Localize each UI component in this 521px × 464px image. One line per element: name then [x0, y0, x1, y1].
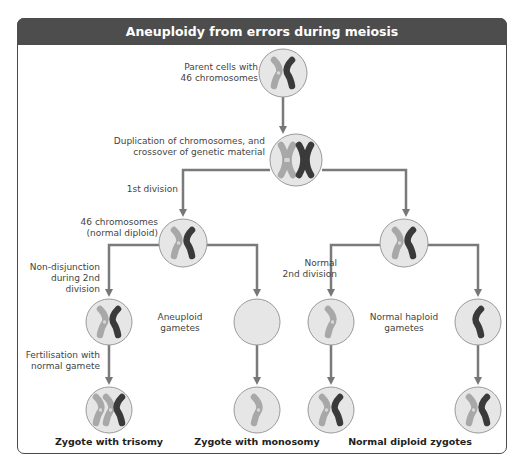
- haploid-label-line2: gametes: [364, 323, 444, 334]
- fertilisation-label-line2: normal gamete: [14, 361, 100, 372]
- cell-gamete-haploid-light: [308, 299, 354, 345]
- duplication-label: Duplication of chromosomes, and crossove…: [100, 136, 265, 158]
- haploid-label-line1: Normal haploid: [364, 312, 444, 323]
- arrow-first-division-right: [322, 170, 406, 213]
- centromere: [98, 408, 102, 412]
- centromere: [330, 320, 334, 324]
- first-division-label: 1st division: [100, 184, 178, 195]
- diploid-label: 46 chromosomes (normal diploid): [60, 217, 158, 239]
- cell-membrane: [455, 387, 501, 433]
- normal2nd-label-line2: 2nd division: [280, 269, 337, 280]
- centromere: [324, 408, 328, 412]
- cell-gamete-disomic: [86, 299, 132, 345]
- arrow-nondisjunction-left: [109, 245, 159, 293]
- nondisjunction-label: Non-disjunction during 2nd division: [14, 262, 100, 295]
- centromere: [108, 408, 112, 412]
- cell-membrane: [234, 299, 280, 345]
- nondisjunction-label-line2: during 2nd division: [14, 273, 100, 295]
- cell-gamete-haploid-dark: [455, 299, 501, 345]
- diploid-label-line2: (normal diploid): [60, 228, 158, 239]
- parent-label-line2: 46 chromosomes: [150, 73, 258, 84]
- cell-diploid-right: [380, 219, 428, 267]
- arrow-first-division-left: [183, 170, 270, 213]
- cell-parent: [259, 49, 307, 97]
- duplication-label-line1: Duplication of chromosomes, and: [100, 136, 265, 147]
- parent-cells-label: Parent cells with 46 chromosomes: [150, 62, 258, 84]
- cell-zygote-trisomy: [86, 387, 132, 433]
- centromere: [176, 241, 180, 245]
- nondisjunction-label-line1: Non-disjunction: [14, 262, 100, 273]
- crossover-point: [284, 158, 290, 163]
- parent-label-line1: Parent cells with: [150, 62, 258, 73]
- cell-duplicated: [270, 134, 322, 186]
- arrow-normal-division-right: [428, 245, 478, 293]
- monosomy-outcome-label: Zygote with monosomy: [187, 436, 327, 447]
- cell-diploid-left: [159, 219, 207, 267]
- cell-membrane: [259, 49, 307, 97]
- cell-zygote-monosomy: [234, 387, 280, 433]
- aneuploid-label-line1: Aneuploid: [150, 312, 210, 323]
- centromere: [102, 320, 106, 324]
- normal2nd-label-line1: Normal: [280, 258, 337, 269]
- trisomy-outcome-label: Zygote with trisomy: [49, 436, 169, 447]
- centromere: [256, 408, 260, 412]
- cell-membrane: [86, 299, 132, 345]
- centromere: [276, 71, 280, 75]
- cell-membrane: [159, 219, 207, 267]
- normal-diploid-outcome-label: Normal diploid zygotes: [340, 436, 480, 447]
- duplication-label-line2: crossover of genetic material: [100, 147, 265, 158]
- arrow-nondisjunction-right: [207, 245, 257, 293]
- diploid-label-line1: 46 chromosomes: [60, 217, 158, 228]
- cell-zygote-normal-1: [308, 387, 354, 433]
- normal-2nd-division-label: Normal 2nd division: [280, 258, 337, 280]
- cell-gamete-nullisomic: [234, 299, 280, 345]
- aneuploid-gametes-label: Aneuploid gametes: [150, 312, 210, 334]
- cell-zygote-normal-2: [455, 387, 501, 433]
- cell-membrane: [380, 219, 428, 267]
- aneuploid-label-line2: gametes: [150, 323, 210, 334]
- centromere: [471, 408, 475, 412]
- cell-membrane: [308, 387, 354, 433]
- centromere: [397, 241, 401, 245]
- cell-membrane: [270, 134, 322, 186]
- fertilisation-label: Fertilisation with normal gamete: [14, 350, 100, 372]
- haploid-gametes-label: Normal haploid gametes: [364, 312, 444, 334]
- arrow-normal-division-left: [331, 245, 380, 293]
- fertilisation-label-line1: Fertilisation with: [14, 350, 100, 361]
